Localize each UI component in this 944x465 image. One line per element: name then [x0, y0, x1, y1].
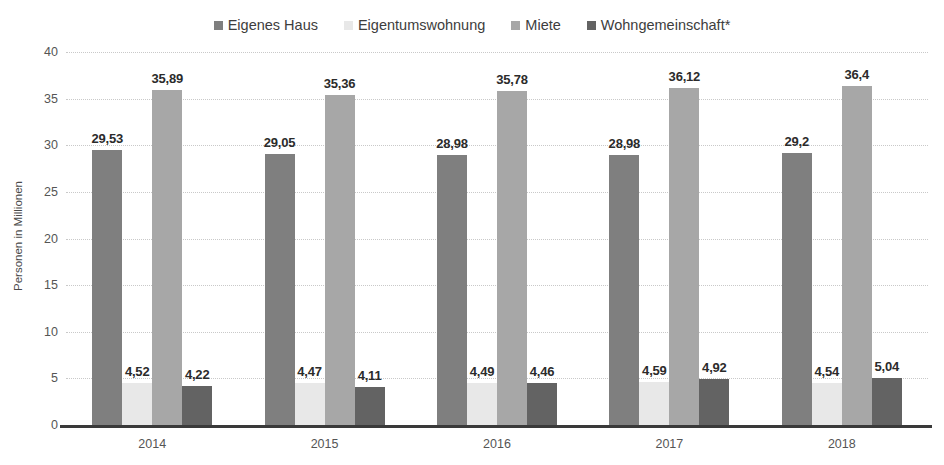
bar-value-label: 36,12 [669, 69, 701, 84]
plot-area: 051015202530354029,534,5235,894,22201429… [66, 52, 928, 425]
y-axis-tick-label: 5 [51, 371, 58, 385]
bar-group-2015: 29,054,4735,364,112015 [238, 52, 410, 425]
bar-value-label: 29,05 [264, 135, 296, 150]
x-axis-tick-label: 2017 [655, 437, 683, 451]
legend-item-3[interactable]: Wohngemeinschaft* [587, 17, 731, 33]
bar-group-2016: 28,984,4935,784,462016 [411, 52, 583, 425]
bar-2015-0[interactable]: 29,05 [265, 154, 295, 425]
bar-group-2017: 28,984,5936,124,922017 [583, 52, 755, 425]
bar-group-2014: 29,534,5235,894,222014 [66, 52, 238, 425]
bar-slot: 4,49 [467, 52, 497, 425]
bar-value-label: 5,04 [875, 359, 900, 374]
bar-value-label: 4,59 [642, 363, 667, 378]
bar-slot: 4,52 [122, 52, 152, 425]
bar-slot: 28,98 [609, 52, 639, 425]
x-axis-tick-label: 2014 [138, 437, 166, 451]
legend-swatch-icon [587, 21, 596, 30]
x-axis-line [60, 425, 932, 428]
bar-slot: 4,11 [355, 52, 385, 425]
y-axis-tick-label: 25 [44, 185, 58, 199]
y-axis-tick-label: 0 [51, 418, 58, 432]
bar-2018-3[interactable]: 5,04 [872, 378, 902, 425]
bar-value-label: 4,11 [358, 368, 382, 383]
x-axis-tick-label: 2015 [311, 437, 339, 451]
bar-value-label: 4,49 [470, 364, 495, 379]
bar-value-label: 35,36 [324, 76, 356, 91]
bar-2018-0[interactable]: 29,2 [782, 153, 812, 425]
bar-slot: 36,12 [669, 52, 699, 425]
legend-item-2[interactable]: Miete [511, 17, 560, 33]
bar-slot: 28,98 [437, 52, 467, 425]
bar-group-bars: 28,984,4935,784,46 [411, 52, 583, 425]
bar-slot: 29,05 [265, 52, 295, 425]
bar-value-label: 28,98 [436, 136, 468, 151]
bar-slot: 35,78 [497, 52, 527, 425]
bar-value-label: 29,53 [91, 131, 123, 146]
bar-group-bars: 28,984,5936,124,92 [583, 52, 755, 425]
bar-2014-3[interactable]: 4,22 [182, 386, 212, 425]
bar-slot: 29,53 [92, 52, 122, 425]
legend-item-1[interactable]: Eigentumswohnung [344, 17, 485, 33]
bar-2017-1[interactable]: 4,59 [639, 382, 669, 425]
legend-swatch-icon [214, 21, 223, 30]
bar-2016-3[interactable]: 4,46 [527, 383, 557, 425]
bar-2017-0[interactable]: 28,98 [609, 155, 639, 425]
bar-value-label: 35,78 [496, 72, 528, 87]
x-axis-tick-label: 2016 [483, 437, 511, 451]
bar-value-label: 29,2 [785, 134, 810, 149]
y-axis-title: Personen in Millionen [12, 181, 24, 291]
bar-slot: 5,04 [872, 52, 902, 425]
bar-slot: 29,2 [782, 52, 812, 425]
bar-2016-1[interactable]: 4,49 [467, 383, 497, 425]
bar-group-bars: 29,24,5436,45,04 [756, 52, 928, 425]
legend-item-label: Eigenes Haus [228, 17, 318, 33]
bar-2017-2[interactable]: 36,12 [669, 88, 699, 425]
bar-slot: 4,47 [295, 52, 325, 425]
bar-2016-0[interactable]: 28,98 [437, 155, 467, 425]
bar-value-label: 4,46 [530, 364, 555, 379]
bar-slot: 4,59 [639, 52, 669, 425]
legend-item-0[interactable]: Eigenes Haus [214, 17, 318, 33]
bar-slot: 4,92 [699, 52, 729, 425]
bar-2014-1[interactable]: 4,52 [122, 383, 152, 425]
chart-legend: Eigenes HausEigentumswohnungMieteWohngem… [0, 14, 944, 36]
y-axis-tick-label: 35 [44, 92, 58, 106]
bar-group-2018: 29,24,5436,45,042018 [756, 52, 928, 425]
bar-2014-0[interactable]: 29,53 [92, 150, 122, 425]
bar-2015-2[interactable]: 35,36 [325, 95, 355, 425]
bar-value-label: 36,4 [845, 67, 870, 82]
bar-2015-1[interactable]: 4,47 [295, 383, 325, 425]
bar-2017-3[interactable]: 4,92 [699, 379, 729, 425]
x-axis-tick-label: 2018 [828, 437, 856, 451]
bar-group-bars: 29,054,4735,364,11 [238, 52, 410, 425]
legend-swatch-icon [511, 21, 520, 30]
bar-2018-2[interactable]: 36,4 [842, 86, 872, 425]
bar-slot: 4,46 [527, 52, 557, 425]
bar-2018-1[interactable]: 4,54 [812, 383, 842, 425]
y-axis-tick-label: 40 [44, 45, 58, 59]
legend-item-label: Miete [525, 17, 560, 33]
bar-group-bars: 29,534,5235,894,22 [66, 52, 238, 425]
bar-value-label: 35,89 [151, 71, 183, 86]
bar-value-label: 4,92 [702, 360, 727, 375]
bar-slot: 4,22 [182, 52, 212, 425]
bar-2015-3[interactable]: 4,11 [355, 387, 385, 425]
bar-slot: 35,36 [325, 52, 355, 425]
y-axis-tick-label: 20 [44, 232, 58, 246]
bar-2014-2[interactable]: 35,89 [152, 90, 182, 425]
legend-item-label: Wohngemeinschaft* [601, 17, 731, 33]
bar-value-label: 4,52 [125, 364, 150, 379]
bar-2016-2[interactable]: 35,78 [497, 91, 527, 425]
legend-swatch-icon [344, 21, 353, 30]
bar-value-label: 28,98 [609, 136, 641, 151]
y-axis-tick-label: 15 [44, 278, 58, 292]
y-axis-tick-label: 10 [44, 325, 58, 339]
bar-slot: 4,54 [812, 52, 842, 425]
y-axis-tick-label: 30 [44, 138, 58, 152]
legend-item-label: Eigentumswohnung [358, 17, 485, 33]
bar-value-label: 4,47 [297, 364, 322, 379]
bar-slot: 35,89 [152, 52, 182, 425]
bar-value-label: 4,54 [815, 364, 840, 379]
bar-slot: 36,4 [842, 52, 872, 425]
bar-value-label: 4,22 [185, 367, 210, 382]
